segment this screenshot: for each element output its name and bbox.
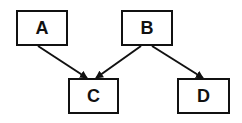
- edge-b-to-c: [96, 46, 141, 78]
- node-c-label: C: [87, 86, 100, 107]
- node-a-label: A: [36, 18, 49, 39]
- node-a: A: [16, 10, 68, 46]
- node-c: C: [68, 78, 119, 114]
- node-b-label: B: [141, 18, 154, 39]
- edge-b-to-d: [152, 46, 203, 78]
- node-d: D: [177, 78, 230, 114]
- node-d-label: D: [197, 86, 210, 107]
- node-b: B: [121, 10, 173, 46]
- edge-a-to-c: [38, 46, 87, 78]
